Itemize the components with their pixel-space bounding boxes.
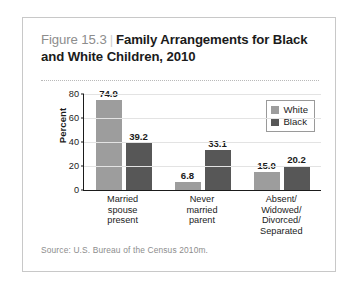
bar-white[interactable]: 6.8: [175, 182, 201, 190]
figure-card: Figure 15.3|Family Arrangements for Blac…: [22, 17, 336, 272]
chart-legend: WhiteBlack: [266, 100, 315, 132]
bar-value-label: 20.2: [287, 154, 306, 165]
plot-area: 74.939.26.833.115.020.2 WhiteBlack 02040…: [83, 94, 321, 191]
gridline: [84, 94, 321, 95]
title-divider: [41, 80, 319, 81]
gridline: [84, 142, 321, 143]
legend-label: White: [283, 104, 308, 116]
bar-value-label: 6.8: [181, 170, 194, 181]
y-tick-label: 60: [69, 113, 84, 123]
chart-area: Percent 74.939.26.833.115.020.2 WhiteBla…: [41, 90, 321, 212]
gridline: [84, 118, 321, 119]
bar-value-label: 33.1: [208, 138, 227, 149]
bar-value-label: 39.2: [129, 131, 148, 142]
gridline: [84, 166, 321, 167]
x-tick-label: Absent/Widowed/Divorced/Separated: [242, 194, 321, 236]
bar-black[interactable]: 33.1: [205, 150, 231, 190]
source-note: Source: U.S. Bureau of the Census 2010m.: [41, 245, 208, 255]
bar-white[interactable]: 74.9: [96, 100, 122, 190]
figure-title-block: Figure 15.3|Family Arrangements for Blac…: [41, 31, 321, 65]
x-axis-labels: MarriedspousepresentNevermarriedparentAb…: [83, 194, 321, 236]
bar-white[interactable]: 15.0: [254, 172, 280, 190]
y-tick-label: 40: [69, 137, 84, 147]
y-tick-label: 20: [69, 161, 84, 171]
y-axis-label: Percent: [57, 96, 68, 156]
figure-number: Figure 15.3: [41, 32, 107, 47]
y-tick-label: 80: [69, 89, 84, 99]
x-tick-label: Marriedspousepresent: [83, 194, 162, 236]
legend-item-white[interactable]: White: [271, 104, 308, 116]
x-tick-label: Nevermarriedparent: [162, 194, 241, 236]
legend-swatch-icon: [271, 118, 279, 126]
title-separator: |: [107, 32, 116, 47]
legend-swatch-icon: [271, 106, 279, 114]
bar-black[interactable]: 20.2: [284, 166, 310, 190]
